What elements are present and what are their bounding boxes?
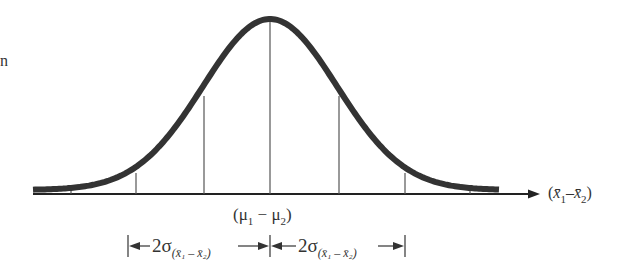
axis-arrowhead-icon (528, 190, 540, 199)
interval-label-right: 2σ(x̄₁ – x̄₂) (298, 235, 357, 261)
stray-glyph: n (0, 52, 8, 70)
mean-difference-label: (μ1 − μ2) (233, 205, 292, 227)
x-axis-label: (x̄1–x̄2) (548, 184, 592, 205)
bell-curve (33, 19, 499, 190)
interval-label-left: 2σ(x̄₁ – x̄₂) (152, 235, 211, 261)
